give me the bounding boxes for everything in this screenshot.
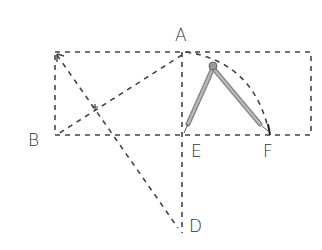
label-e: E [191,141,202,161]
label-d: D [189,216,202,236]
compass-hinge [209,62,217,70]
dashed-rectangle [55,52,311,135]
geometry-diagram: A B E F D [0,0,322,250]
label-a: A [175,25,187,45]
diagonal-a-b [58,55,182,134]
compass [184,62,270,135]
label-f: F [263,141,273,161]
pencil-tip [268,124,270,135]
label-b: B [28,130,39,150]
line-topleft-d [57,55,178,228]
